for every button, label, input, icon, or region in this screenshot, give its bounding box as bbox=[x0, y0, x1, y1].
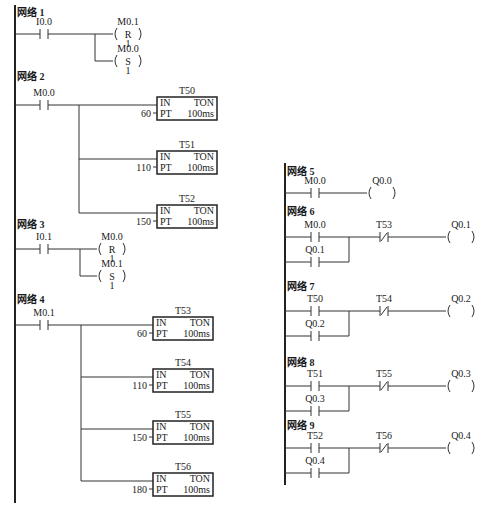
no-contact: M0.0 bbox=[304, 219, 325, 242]
timer-base: 100ms bbox=[183, 380, 210, 391]
network-label: 网络 3 bbox=[17, 218, 45, 230]
coil: M0.1S1 bbox=[99, 258, 125, 291]
timer-preset: 180 bbox=[132, 484, 147, 495]
timer-preset: 60 bbox=[137, 328, 147, 339]
network-label: 网络 2 bbox=[17, 70, 45, 82]
nc-contact: T55 bbox=[376, 368, 392, 391]
timer-pin-in: IN bbox=[156, 369, 167, 380]
nc-contact: T54 bbox=[376, 293, 392, 316]
contact-address: T55 bbox=[376, 368, 392, 379]
no-contact: Q0.1 bbox=[305, 244, 325, 267]
timer-address: T56 bbox=[175, 461, 191, 472]
timer-preset: 110 bbox=[136, 162, 151, 173]
contact-address: I0.1 bbox=[36, 231, 52, 242]
coil-address: M0.1 bbox=[101, 258, 122, 269]
timer-pin-pt: PT bbox=[160, 108, 172, 119]
coil: Q0.0 bbox=[369, 175, 395, 199]
timer-type: TON bbox=[194, 151, 214, 162]
timer-block: T50INTONPT100ms60 bbox=[141, 85, 217, 120]
contact-address: M0.1 bbox=[33, 307, 54, 318]
network-7: 网络 7T50Q0.2T54Q0.2 bbox=[285, 280, 474, 341]
network-2: 网络 2M0.0T50INTONPT100ms60T51INTONPT100ms… bbox=[15, 70, 217, 228]
timer-base: 100ms bbox=[187, 162, 214, 173]
coil: Q0.2 bbox=[448, 293, 474, 317]
network-1: 网络 1I0.0M0.1R1M0.0S1 bbox=[15, 6, 141, 76]
coil-address: M0.0 bbox=[101, 231, 122, 242]
timer-pin-in: IN bbox=[156, 317, 167, 328]
timer-address: T55 bbox=[175, 409, 191, 420]
coil-address: M0.1 bbox=[117, 16, 138, 27]
contact-address: Q0.3 bbox=[305, 393, 325, 404]
contact-address: Q0.1 bbox=[305, 244, 325, 255]
timer-pin-in: IN bbox=[160, 205, 171, 216]
timer-pin-in: IN bbox=[156, 473, 167, 484]
network-label: 网络 6 bbox=[287, 205, 315, 217]
coil-count: 1 bbox=[126, 65, 131, 76]
right-column: 网络 5M0.0Q0.0网络 6M0.0Q0.1T53Q0.1网络 7T50Q0… bbox=[285, 165, 474, 478]
contact-address: T53 bbox=[376, 219, 392, 230]
contact-address: T52 bbox=[307, 430, 323, 441]
timer-block: T53INTONPT100ms60 bbox=[137, 305, 213, 340]
contact-address: M0.0 bbox=[304, 219, 325, 230]
no-contact: I0.1 bbox=[36, 231, 52, 254]
timer-block: T56INTONPT100ms180 bbox=[132, 461, 213, 496]
ladder-diagram: 网络 1I0.0M0.1R1M0.0S1网络 2M0.0T50INTONPT10… bbox=[0, 0, 495, 509]
coil: Q0.4 bbox=[448, 430, 474, 454]
timer-block: T51INTONPT100ms110 bbox=[136, 139, 217, 174]
network-4: 网络 4M0.1T53INTONPT100ms60T54INTONPT100ms… bbox=[15, 293, 213, 496]
timer-type: TON bbox=[190, 317, 210, 328]
timer-block: T54INTONPT100ms110 bbox=[132, 357, 213, 392]
contact-address: I0.0 bbox=[36, 16, 52, 27]
timer-pin-pt: PT bbox=[156, 328, 168, 339]
coil-count: 1 bbox=[110, 280, 115, 291]
timer-pin-in: IN bbox=[160, 97, 171, 108]
timer-address: T52 bbox=[179, 193, 195, 204]
left-column: 网络 1I0.0M0.1R1M0.0S1网络 2M0.0T50INTONPT10… bbox=[15, 6, 217, 496]
network-9: 网络 9T52Q0.4T56Q0.4 bbox=[285, 419, 474, 478]
timer-base: 100ms bbox=[183, 328, 210, 339]
timer-type: TON bbox=[194, 97, 214, 108]
no-contact: Q0.4 bbox=[305, 455, 325, 478]
nc-contact: T56 bbox=[376, 430, 392, 453]
network-3: 网络 3I0.1M0.0R1M0.1S1 bbox=[15, 218, 125, 291]
contact-address: M0.0 bbox=[304, 175, 325, 186]
timer-address: T50 bbox=[179, 85, 195, 96]
timer-preset: 150 bbox=[132, 432, 147, 443]
timer-pin-pt: PT bbox=[160, 162, 172, 173]
no-contact: M0.0 bbox=[33, 87, 54, 110]
coil: Q0.3 bbox=[448, 368, 474, 392]
timer-pin-in: IN bbox=[156, 421, 167, 432]
timer-pin-pt: PT bbox=[160, 216, 172, 227]
timer-type: TON bbox=[190, 369, 210, 380]
network-5: 网络 5M0.0Q0.0 bbox=[285, 165, 395, 199]
network-label: 网络 7 bbox=[287, 280, 315, 292]
coil: M0.0S1 bbox=[115, 43, 141, 76]
coil-address: Q0.3 bbox=[451, 368, 471, 379]
network-6: 网络 6M0.0Q0.1T53Q0.1 bbox=[285, 205, 474, 267]
timer-type: TON bbox=[194, 205, 214, 216]
contact-address: T56 bbox=[376, 430, 392, 441]
timer-base: 100ms bbox=[183, 484, 210, 495]
no-contact: M0.0 bbox=[304, 175, 325, 198]
timer-base: 100ms bbox=[187, 216, 214, 227]
network-label: 网络 4 bbox=[17, 293, 45, 305]
no-contact: Q0.3 bbox=[305, 393, 325, 416]
timer-base: 100ms bbox=[187, 108, 214, 119]
no-contact: Q0.2 bbox=[305, 318, 325, 341]
timer-block: T55INTONPT100ms150 bbox=[132, 409, 213, 444]
coil: Q0.1 bbox=[448, 219, 474, 243]
timer-address: T53 bbox=[175, 305, 191, 316]
timer-pin-pt: PT bbox=[156, 380, 168, 391]
coil-address: Q0.1 bbox=[451, 219, 471, 230]
contact-address: M0.0 bbox=[33, 87, 54, 98]
timer-preset: 110 bbox=[132, 380, 147, 391]
no-contact: M0.1 bbox=[33, 307, 54, 330]
contact-address: T54 bbox=[376, 293, 392, 304]
network-label: 网络 8 bbox=[287, 356, 315, 368]
timer-type: TON bbox=[190, 421, 210, 432]
timer-base: 100ms bbox=[183, 432, 210, 443]
coil-address: Q0.0 bbox=[372, 175, 392, 186]
network-8: 网络 8T51Q0.3T55Q0.3 bbox=[285, 356, 474, 416]
contact-address: T51 bbox=[307, 368, 323, 379]
timer-pin-in: IN bbox=[160, 151, 171, 162]
